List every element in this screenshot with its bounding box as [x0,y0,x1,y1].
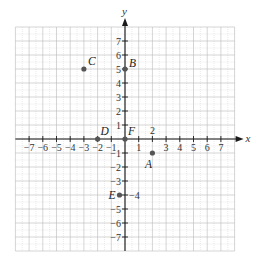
y-axis-arrow-icon [122,18,128,26]
point-c-label: C [88,55,96,67]
point-d-marker [95,136,100,141]
y-tick-label: 5 [116,64,121,75]
x-tick-label: −5 [51,142,62,153]
y-axis-label: y [121,5,127,17]
point-d-label: D [100,125,110,137]
y-tick-label: 7 [116,36,121,47]
x-tick-label: −7 [24,142,35,153]
annotation-e-y-coordinate: −4 [129,190,140,201]
y-tick-label: −6 [110,218,121,229]
x-tick-label: −2 [92,142,103,153]
y-tick-label: −1 [110,148,121,159]
x-axis-label: x [245,132,251,144]
y-tick-label: 1 [116,120,121,131]
x-axis-arrow-icon [236,136,244,142]
point-b-marker [122,66,127,71]
x-tick-label: 5 [191,142,196,153]
x-tick-label: −4 [65,142,76,153]
y-tick-label: 2 [116,106,121,117]
x-tick-label: −6 [37,142,48,153]
y-tick-label: −3 [110,176,121,187]
point-a-label: A [144,158,153,170]
point-b-label: B [129,57,136,69]
x-tick-label: 4 [177,142,182,153]
point-e-marker [117,192,122,197]
y-tick-label: 3 [116,92,121,103]
x-tick-label: 3 [164,142,169,153]
point-a-marker [150,150,155,155]
y-tick-label: 4 [116,78,121,89]
y-tick-label: −2 [110,162,121,173]
point-e-label: E [107,189,115,201]
point-f-marker [122,136,127,141]
y-tick-label: −7 [110,232,121,243]
y-tick-label: −5 [110,204,121,215]
y-tick-label: 6 [116,50,121,61]
point-c-marker [81,66,86,71]
coordinate-plane: xy −7−6−5−4−3−2−11345677654321−1−2−3−5−6… [0,0,253,264]
point-f-label: F [127,125,136,137]
annotation-a-x-coordinate: 2 [150,125,155,136]
x-tick-label: 6 [205,142,210,153]
x-tick-label: 1 [136,142,141,153]
x-tick-label: −3 [79,142,90,153]
x-tick-label: 7 [218,142,223,153]
